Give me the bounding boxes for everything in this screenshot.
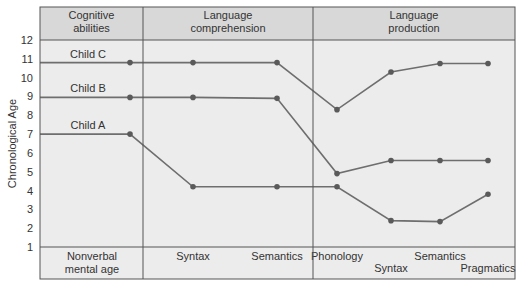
chart: CognitiveabilitiesLanguagecomprehensionL… — [0, 0, 525, 290]
y-axis: 123456789101112Chronological Age — [6, 34, 33, 253]
panel-header-2: production — [388, 22, 439, 34]
category-label: Semantics — [414, 250, 466, 262]
y-tick-label: 4 — [27, 185, 33, 197]
data-point — [127, 95, 133, 101]
panel-header-0: Cognitive — [69, 9, 115, 21]
data-point — [485, 158, 491, 164]
y-tick-label: 10 — [21, 72, 33, 84]
y-tick-label: 7 — [27, 128, 33, 140]
data-point — [388, 218, 394, 224]
category-label: Syntax — [374, 262, 408, 274]
chart-background — [40, 7, 515, 279]
data-point — [485, 192, 491, 198]
category-label: Phonology — [311, 250, 363, 262]
y-tick-label: 1 — [27, 241, 33, 253]
data-point — [190, 95, 196, 101]
panel-header-0: abilities — [73, 22, 110, 34]
y-tick-label: 6 — [27, 147, 33, 159]
series-label: Child A — [71, 119, 107, 131]
category-label: mental age — [65, 263, 119, 275]
data-point — [437, 219, 443, 225]
plot-area — [40, 7, 515, 279]
panel-header-1: comprehension — [190, 22, 265, 34]
data-point — [334, 184, 340, 190]
y-tick-label: 12 — [21, 34, 33, 46]
category-label: Pragmatics — [460, 262, 516, 274]
y-tick-label: 11 — [22, 53, 33, 65]
y-tick-label: 2 — [27, 222, 33, 234]
data-point — [485, 61, 491, 67]
category-label: Syntax — [176, 250, 210, 262]
data-point — [190, 184, 196, 190]
category-label: Nonverbal — [67, 250, 117, 262]
y-tick-label: 3 — [27, 203, 33, 215]
category-label: Semantics — [251, 250, 303, 262]
data-point — [437, 61, 443, 67]
series-label: Child B — [70, 82, 105, 94]
data-point — [334, 107, 340, 113]
data-point — [388, 69, 394, 75]
y-tick-label: 5 — [27, 166, 33, 178]
data-point — [388, 158, 394, 164]
y-tick-label: 9 — [27, 90, 33, 102]
y-axis-title: Chronological Age — [6, 99, 18, 188]
panel-header-1: Language — [204, 9, 253, 21]
data-point — [274, 60, 280, 66]
data-point — [127, 131, 133, 137]
data-point — [274, 184, 280, 190]
data-point — [274, 96, 280, 102]
data-point — [190, 60, 196, 66]
y-tick-label: 8 — [27, 109, 33, 121]
data-point — [334, 171, 340, 177]
data-point — [437, 158, 443, 164]
data-point — [127, 60, 133, 66]
series-label: Child C — [70, 48, 106, 60]
panel-header-2: Language — [390, 9, 439, 21]
